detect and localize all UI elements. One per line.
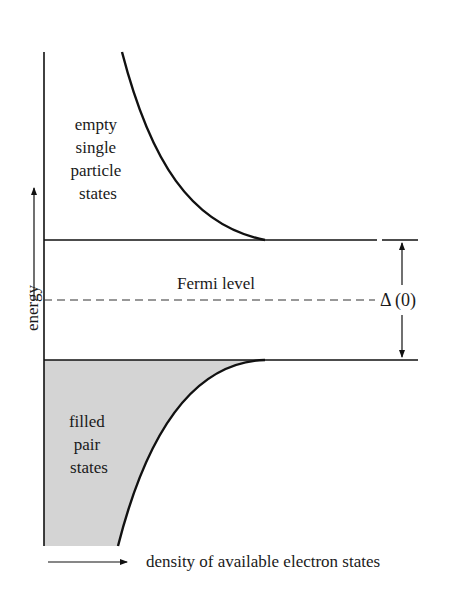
gap-label: Δ (0) xyxy=(380,290,416,311)
empty-states-label: empty single particle states xyxy=(70,115,125,203)
density-axis-label: density of available electron states xyxy=(146,552,380,571)
filled-pair-states-label: filled pair states xyxy=(69,412,109,477)
superconducting-gap-diagram: empty single particle states filled pair… xyxy=(0,0,468,597)
fermi-level-label: Fermi level xyxy=(177,274,255,293)
energy-axis-label: energy xyxy=(23,285,42,331)
upper-density-curve xyxy=(122,52,265,240)
